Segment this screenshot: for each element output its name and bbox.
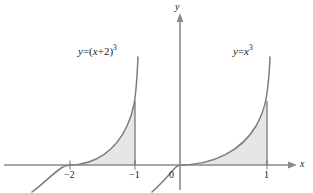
tick-label-origin: 0 (169, 170, 174, 180)
curve-label-shifted-cubic: y=(x+2)3 (78, 44, 117, 57)
tick-label-minus-2: −2 (64, 170, 75, 180)
label-exponent-right: 3 (249, 43, 253, 52)
tick-label-minus-1: −1 (129, 170, 140, 180)
x-axis-label: x (300, 159, 304, 169)
curve-shifted-cubic (32, 57, 138, 192)
y-axis-arrowhead (177, 13, 184, 22)
label-exponent-left: 3 (113, 43, 117, 52)
tick-label-1: 1 (264, 170, 269, 180)
curve-label-basic-cubic: y=x3 (233, 44, 253, 57)
y-axis-label: y (175, 2, 179, 12)
integral-area-figure (0, 0, 313, 193)
x-axis-arrowhead (288, 162, 297, 169)
